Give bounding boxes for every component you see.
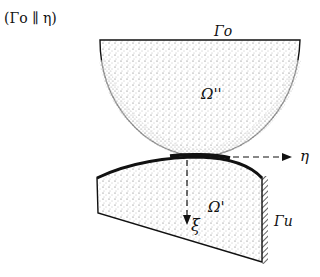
upper-boundary-label: Γo (214, 24, 232, 38)
lower-body-label: Ω' (208, 200, 225, 215)
eta-arrowhead-icon (282, 153, 292, 161)
lower-body (97, 157, 262, 262)
clamped-boundary-hatch (262, 176, 268, 264)
contact-diagram (0, 0, 320, 277)
xi-label: ξ (191, 218, 200, 234)
upper-body-label: Ω'' (201, 87, 222, 102)
lower-boundary-label: Γu (274, 214, 293, 228)
eta-label: η (300, 149, 309, 164)
caption: (Γo ∥ η) (4, 11, 57, 25)
upper-body (100, 40, 300, 157)
